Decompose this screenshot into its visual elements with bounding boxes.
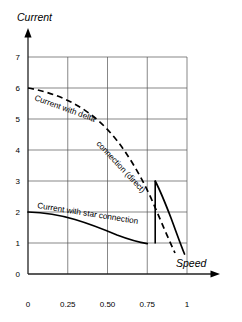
x-tick-050: 0.50: [100, 300, 116, 309]
x-tick-075: 0.75: [139, 300, 155, 309]
x-axis-arrow-icon: [211, 270, 221, 277]
y-axis-title: Current: [17, 11, 53, 23]
axes: [24, 28, 220, 278]
y-tick-7: 7: [16, 53, 21, 62]
y-tick-6: 6: [16, 84, 21, 93]
x-tick-labels: 0 0.25 0.50 0.75 1: [26, 300, 190, 309]
y-tick-4: 4: [16, 146, 21, 155]
y-tick-1: 1: [16, 239, 21, 248]
y-tick-5: 5: [16, 115, 21, 124]
delta-curve-label-group: Current with delta connection (direct): [33, 93, 147, 194]
y-tick-3: 3: [16, 177, 21, 186]
x-tick-0: 0: [26, 300, 31, 309]
delta-curve-label-part1: Current with delta: [33, 93, 97, 124]
y-tick-2: 2: [16, 208, 21, 217]
x-tick-025: 0.25: [60, 300, 76, 309]
motor-current-speed-chart: Current Speed 7 6 5 4 3 2 1 0 0 0.25 0.5…: [0, 0, 242, 322]
vertical-gridlines: [68, 57, 187, 274]
delta-curve-label-part2: connection (direct): [95, 139, 148, 195]
chart-container: Current Speed 7 6 5 4 3 2 1 0 0 0.25 0.5…: [0, 0, 242, 322]
y-tick-labels: 7 6 5 4 3 2 1 0: [16, 53, 21, 279]
y-tick-0: 0: [16, 270, 21, 279]
y-axis-arrow-icon: [24, 28, 31, 38]
x-tick-1: 1: [185, 300, 190, 309]
x-axis-title: Speed: [176, 257, 208, 269]
